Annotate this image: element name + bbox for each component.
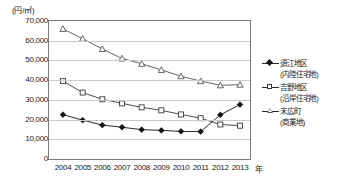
data-point (99, 46, 105, 52)
data-point (218, 122, 223, 127)
y-axis-tick-label: 20,000 (25, 115, 48, 124)
data-point (119, 124, 125, 130)
gridline (49, 120, 250, 121)
legend-marker-filled-diamond-icon (262, 59, 279, 68)
x-axis-tick-label: 2013 (228, 163, 252, 172)
y-axis-tick-label: 60,000 (25, 36, 48, 45)
y-axis-unit-label: (円/㎡) (12, 4, 35, 15)
legend-marker-open-triangle-icon (262, 107, 279, 116)
data-point (238, 123, 243, 128)
chart-legend: 須江地区(内陸住宅地)吉野地区(沿岸住宅地)末広町(商業地) (262, 58, 343, 130)
legend-label: 末広町 (280, 106, 300, 117)
legend-sublabel: (沿岸住宅地) (280, 93, 343, 104)
data-point (120, 101, 125, 106)
data-point (139, 127, 145, 133)
series-layer (49, 21, 250, 159)
y-axis-tick-label: 50,000 (25, 55, 48, 64)
y-axis-tick-label: 70,000 (25, 16, 48, 25)
legend-entry[interactable]: 吉野地区(沿岸住宅地) (262, 82, 343, 104)
y-axis-tick-label: 30,000 (25, 95, 48, 104)
series-filled-diamond (60, 102, 243, 135)
data-point (159, 108, 164, 113)
legend-sublabel: (内陸住宅地) (280, 69, 343, 80)
gridline (49, 41, 250, 42)
series-line (63, 29, 240, 85)
legend-entry[interactable]: 末広町(商業地) (262, 106, 343, 128)
x-axis-unit-label: 年 (255, 163, 263, 174)
gridline (49, 139, 250, 140)
legend-sublabel: (商業地) (280, 117, 343, 128)
gridline (49, 60, 250, 61)
legend-entry[interactable]: 須江地区(内陸住宅地) (262, 58, 343, 80)
data-point (139, 105, 144, 110)
data-point (237, 102, 243, 108)
y-axis-tick-label: 10,000 (25, 134, 48, 143)
gridline (49, 80, 250, 81)
data-point (60, 112, 66, 118)
data-point (158, 128, 164, 134)
data-point (178, 129, 184, 135)
data-point (60, 26, 66, 32)
legend-label: 須江地区 (280, 58, 307, 69)
y-axis-tick-label: 40,000 (25, 75, 48, 84)
land-price-line-chart: (円/㎡) 70,00060,00050,00040,00030,00020,0… (0, 0, 343, 185)
plot-area (48, 20, 251, 160)
legend-marker-open-square-icon (262, 83, 279, 92)
data-point (99, 122, 105, 128)
data-point (80, 90, 85, 95)
gridline (49, 100, 250, 101)
data-point (179, 112, 184, 117)
legend-label: 吉野地区 (280, 82, 307, 93)
series-open-triangle (60, 26, 243, 88)
series-open-square (61, 79, 243, 129)
